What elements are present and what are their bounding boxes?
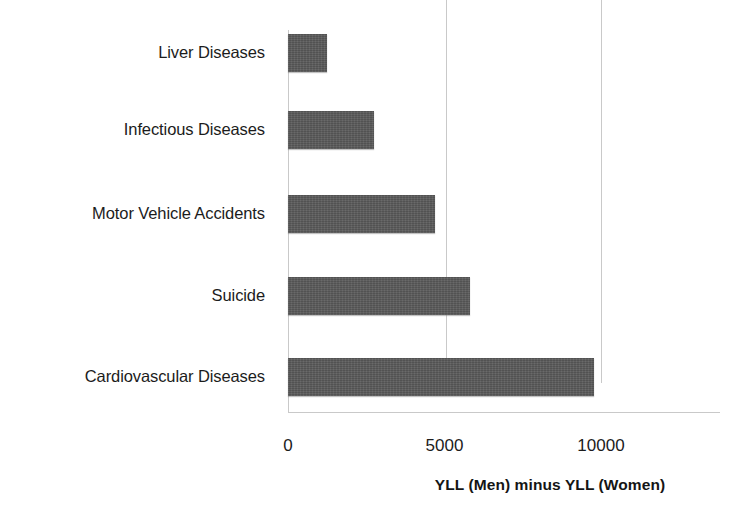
category-label: Liver Diseases: [158, 44, 265, 61]
x-axis-line: [288, 412, 720, 413]
x-tick-label: 0: [283, 437, 292, 454]
x-tick-label: 10000: [577, 437, 624, 454]
bar: [288, 34, 327, 72]
category-label: Infectious Diseases: [124, 121, 265, 138]
category-label: Suicide: [212, 287, 265, 304]
bar: [288, 358, 594, 396]
category-label: Cardiovascular Diseases: [85, 368, 265, 385]
bar: [288, 195, 435, 233]
gridline-10000: [601, 0, 602, 383]
category-label: Motor Vehicle Accidents: [92, 205, 265, 222]
x-tick-label: 5000: [426, 437, 464, 454]
bar: [288, 111, 374, 149]
x-axis-title: YLL (Men) minus YLL (Women): [435, 477, 666, 493]
bar: [288, 277, 470, 315]
bar-chart: Liver DiseasesInfectious DiseasesMotor V…: [0, 0, 749, 512]
gridline-5000: [446, 0, 447, 383]
